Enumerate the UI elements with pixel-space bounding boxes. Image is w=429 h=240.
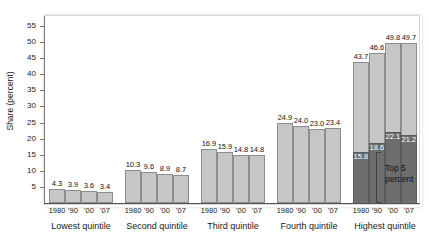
y-tick-mark <box>40 155 44 156</box>
bar <box>173 175 189 203</box>
y-tick-mark <box>40 187 44 188</box>
bar <box>65 190 81 203</box>
bar <box>309 129 325 203</box>
bar <box>217 152 233 203</box>
group-label: Highest quintile <box>341 221 429 231</box>
x-tick-label: '07 <box>321 206 345 215</box>
y-tick-label: 25 <box>0 119 36 127</box>
bar-overlay-value-label: 18.6 <box>370 144 385 152</box>
bar-overlay-value-label: 15.8 <box>354 153 369 161</box>
y-tick-mark <box>40 171 44 172</box>
bar <box>293 126 309 203</box>
income-share-bar-chart: Share (percent) 510152025303540455055 4.… <box>0 0 429 240</box>
bar <box>201 149 217 203</box>
y-tick-mark <box>40 106 44 107</box>
x-tick-label: '07 <box>169 206 193 215</box>
y-tick-mark <box>40 42 44 43</box>
bar-value-label: 23.4 <box>324 119 342 127</box>
y-tick-mark <box>40 90 44 91</box>
y-axis-line <box>44 16 45 204</box>
group-label: Fourth quintile <box>265 221 353 231</box>
bar-value-label: 14.8 <box>248 146 266 154</box>
bar-value-label: 49.7 <box>400 34 418 42</box>
bar <box>325 128 341 203</box>
group-label: Second quintile <box>113 221 201 231</box>
bar <box>277 123 293 203</box>
x-tick-label: '07 <box>93 206 117 215</box>
y-tick-mark <box>40 74 44 75</box>
y-tick-label: 20 <box>0 135 36 143</box>
y-tick-mark <box>40 58 44 59</box>
y-tick-label: 40 <box>0 70 36 78</box>
x-tick-label: '07 <box>245 206 269 215</box>
group-label: Third quintile <box>189 221 277 231</box>
y-tick-label: 55 <box>0 22 36 30</box>
y-tick-mark <box>40 123 44 124</box>
y-tick-label: 50 <box>0 38 36 46</box>
group-label: Lowest quintile <box>37 221 125 231</box>
bar-value-label: 46.6 <box>368 44 386 52</box>
bar <box>97 192 113 203</box>
x-axis-line <box>44 203 420 204</box>
top5-label-line1: Top 5 <box>385 163 413 174</box>
y-tick-label: 10 <box>0 167 36 175</box>
y-tick-label: 15 <box>0 151 36 159</box>
bar-value-label: 8.7 <box>172 166 190 174</box>
y-tick-mark <box>40 26 44 27</box>
y-tick-mark <box>40 139 44 140</box>
bar <box>49 189 65 203</box>
y-tick-label: 45 <box>0 54 36 62</box>
bar <box>249 155 265 203</box>
top5-label-line2: percent <box>385 174 413 185</box>
top5-annotation-label: Top 5 percent <box>385 163 413 185</box>
bar-overlay-value-label: 21.2 <box>402 136 417 144</box>
bar <box>233 155 249 203</box>
x-tick-label: '07 <box>397 206 421 215</box>
top5-bracket <box>376 152 381 203</box>
bar <box>141 172 157 203</box>
bar-overlay-value-label: 22.1 <box>386 133 401 141</box>
bar <box>81 191 97 203</box>
bar <box>125 170 141 203</box>
bar-value-label: 3.4 <box>96 183 114 191</box>
y-tick-label: 35 <box>0 86 36 94</box>
bar <box>157 174 173 203</box>
bar-value-label: 43.7 <box>352 53 370 61</box>
y-tick-label: 5 <box>0 183 36 191</box>
y-tick-label: 30 <box>0 102 36 110</box>
